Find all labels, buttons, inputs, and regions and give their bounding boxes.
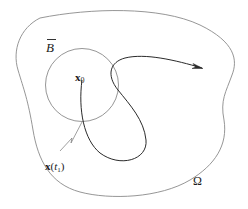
closure-bar (47, 39, 56, 40)
domain-omega-label: Ω (193, 175, 202, 187)
exit-point-label: x(t1) (45, 161, 64, 174)
ball-b-label: B (46, 41, 54, 54)
trajectory-curve (81, 56, 202, 160)
ball-b-boundary (46, 49, 119, 122)
exit-point-pointer (60, 122, 82, 151)
initial-point-label: x0 (75, 72, 85, 85)
diagram-svg (0, 0, 248, 209)
diagram-canvas: B x0 x(t1) Ω (0, 0, 248, 209)
